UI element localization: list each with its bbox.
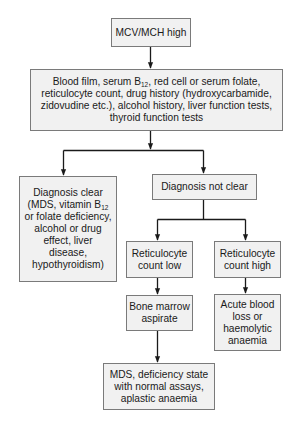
node-line: Reticulocyte (220, 248, 276, 260)
subscript: 12 (101, 204, 108, 211)
node-investigations: Blood film, serum B12, red cell or serum… (30, 69, 283, 131)
node-line: Diagnosis clear (24, 187, 111, 199)
node-line: alcohol or drug (24, 223, 111, 235)
node-line: effect, liver (24, 235, 111, 247)
node-line: anaemia (221, 335, 275, 347)
node-label: MCV/MCH high (116, 27, 187, 39)
node-line: MDS, deficiency state (110, 369, 209, 381)
node-line: (MDS, vitamin B12 (24, 199, 111, 211)
node-mcv-mch-high: MCV/MCH high (111, 18, 191, 47)
node-bone-marrow-aspirate: Bone marrow aspirate (126, 295, 193, 331)
node-line: hypothyroidism) (24, 259, 111, 271)
node-line: count low (132, 260, 188, 272)
node-reticulocyte-count-low: Reticulocyte count low (126, 241, 193, 278)
node-line: loss or (221, 311, 275, 323)
node-line: disease, (24, 247, 111, 259)
node-line: Acute blood (221, 299, 275, 311)
node-line: haemolytic (221, 323, 275, 335)
node-label: Diagnosis not clear (161, 181, 248, 193)
node-line: aspirate (129, 313, 190, 325)
node-reticulocyte-count-high: Reticulocyte count high (214, 241, 281, 278)
node-line: Blood film, serum B12, red cell or serum… (41, 76, 272, 88)
node-acute-blood-loss: Acute blood loss or haemolytic anaemia (214, 294, 281, 351)
node-line: zidovudine etc.), alcohol history, liver… (41, 100, 272, 112)
node-line: reticulocyte count, drug history (hydrox… (41, 88, 272, 100)
node-line: with normal assays, (110, 381, 209, 393)
node-line: thyroid function tests (41, 112, 272, 124)
node-diagnosis-clear: Diagnosis clear (MDS, vitamin B12 or fol… (19, 176, 117, 282)
node-mds-outcome: MDS, deficiency state with normal assays… (103, 363, 215, 410)
flowchart-canvas: MCV/MCH high Blood film, serum B12, red … (0, 0, 301, 422)
node-line: Reticulocyte (132, 248, 188, 260)
node-line: Bone marrow (129, 301, 190, 313)
node-diagnosis-not-clear: Diagnosis not clear (152, 174, 257, 200)
node-line: count high (220, 260, 276, 272)
node-line: aplastic anaemia (110, 393, 209, 405)
node-line: or folate deficiency, (24, 211, 111, 223)
